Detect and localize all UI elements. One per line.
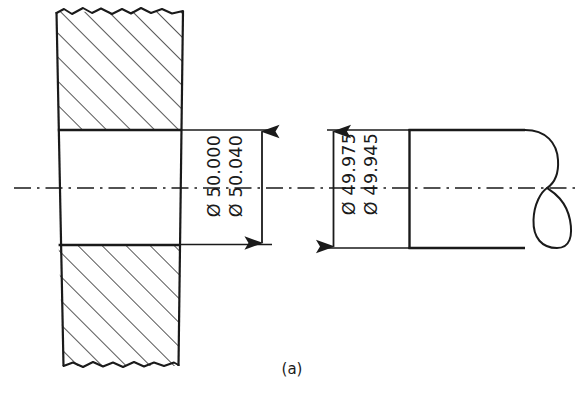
engineering-drawing-figure: Ø 50.000 Ø 50.040 Ø 49.975 Ø 49.945 (a) <box>0 0 584 396</box>
shaft-s-break-upper-loop <box>525 130 558 188</box>
section-hatch-upper <box>50 5 190 137</box>
shaft-upper-limit-dimension-text: Ø 49.975 <box>341 133 359 215</box>
hole-lower-limit-dimension-text: Ø 50.040 <box>228 135 246 217</box>
drawing-canvas <box>0 0 584 396</box>
shaft-view <box>409 129 572 249</box>
shaft-lower-limit-dimension-text: Ø 49.945 <box>363 133 381 215</box>
section-hatch-lower <box>52 240 192 372</box>
figure-caption: (a) <box>0 360 584 378</box>
hole-upper-limit-dimension-text: Ø 50.000 <box>206 135 224 217</box>
shaft-s-break-lower-loop <box>533 188 571 248</box>
